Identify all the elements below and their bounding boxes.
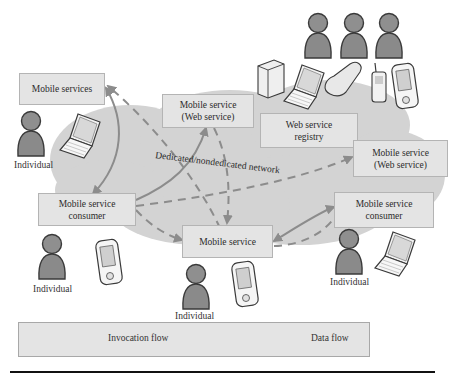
box-line: Mobile service: [180, 99, 237, 111]
web-service-right-box: Mobile service (Web service): [353, 140, 448, 177]
box-line: Mobile service: [372, 147, 429, 159]
web-service-registry-box: Web service registry: [260, 113, 358, 148]
individual-label: Individual: [175, 311, 214, 321]
person-icon: [183, 265, 209, 310]
box-line: Mobile service: [199, 236, 256, 248]
consumer-left-box: Mobile service consumer: [38, 193, 136, 226]
laptop-icon: [375, 232, 415, 276]
box-line: (Web service): [182, 111, 235, 123]
cell-phone-icon: [372, 63, 386, 102]
individual-label: Individual: [33, 284, 72, 294]
consumer-right-box: Mobile service consumer: [334, 192, 434, 228]
box-line: registry: [294, 131, 323, 143]
box-line: Mobile service: [356, 198, 413, 210]
person-icon: [336, 230, 362, 275]
data-flow-label: Data flow: [311, 333, 349, 343]
box-line: Web service: [286, 119, 332, 131]
individual-label: Individual: [14, 160, 53, 170]
box-line: consumer: [366, 210, 403, 222]
web-service-top-box: Mobile service (Web service): [162, 94, 254, 128]
pda-icon: [95, 239, 123, 286]
user-group-icon: [305, 14, 402, 59]
mobile-services-box: Mobile services: [19, 73, 105, 105]
box-line: consumer: [69, 210, 106, 222]
bottom-rule: [10, 371, 435, 373]
invocation-flow-label: Invocation flow: [108, 333, 168, 343]
server-icon: [258, 60, 284, 98]
legend: Invocation flow Data flow: [18, 322, 370, 357]
mobile-service-bottom-box: Mobile service: [182, 225, 273, 258]
box-line: (Web service): [374, 159, 427, 171]
box-line: Mobile service: [59, 198, 116, 210]
person-icon: [18, 112, 44, 157]
pda-icon: [231, 261, 259, 308]
mobile-services-label: Mobile services: [32, 83, 92, 95]
individual-label: Individual: [330, 277, 369, 287]
person-icon: [39, 235, 65, 280]
